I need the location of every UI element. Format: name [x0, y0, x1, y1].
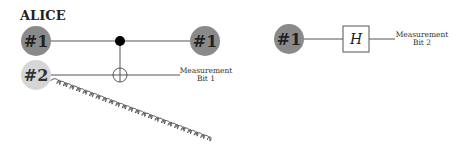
- circuit-diagram: ALICE #2 #1 #1 Measurement Bit 1 #1 H Me…: [0, 0, 463, 147]
- measurement-bit1-line2: Bit 1: [197, 74, 215, 83]
- qubit2-label: #2: [24, 66, 49, 85]
- qubit1-end-label: #1: [193, 32, 218, 51]
- hadamard-label: H: [349, 31, 363, 47]
- cnot-control-dot: [115, 36, 125, 46]
- entanglement-spring: [50, 79, 211, 141]
- qubit1-start-label: #1: [24, 32, 49, 51]
- right-qubit1-label: #1: [277, 30, 302, 49]
- alice-title: ALICE: [19, 8, 66, 23]
- cnot-target-icon: [113, 68, 127, 82]
- measurement-bit2-line2: Bit 2: [413, 38, 431, 47]
